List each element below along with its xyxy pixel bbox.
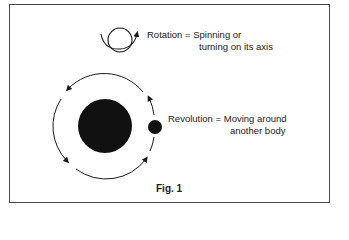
- rotating-sphere-icon: [101, 28, 137, 52]
- figure-caption: Fig. 1: [156, 183, 182, 194]
- rotation-definition-line2: turning on its axis: [199, 41, 273, 53]
- moon-icon: [148, 120, 162, 134]
- planet-icon: [78, 99, 132, 153]
- rotation-definition-line1: Rotation = Spinning or: [147, 29, 241, 41]
- revolution-definition-line1: Revolution = Moving around: [168, 113, 287, 125]
- revolution-definition-line2: another body: [230, 125, 285, 137]
